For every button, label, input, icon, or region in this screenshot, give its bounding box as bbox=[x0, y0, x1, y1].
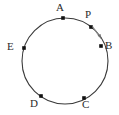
figure-canvas bbox=[0, 0, 119, 115]
geometry-figure: A P B C D E bbox=[0, 0, 119, 115]
label-point-p: P bbox=[85, 9, 91, 20]
arrow-p-to-b-icon bbox=[93, 27, 102, 40]
label-point-a: A bbox=[56, 2, 64, 13]
point-marker-a bbox=[61, 16, 65, 20]
point-marker-d bbox=[39, 94, 43, 98]
point-marker-e bbox=[22, 46, 26, 50]
label-point-b: B bbox=[105, 40, 112, 51]
point-marker-b bbox=[99, 44, 103, 48]
label-point-d: D bbox=[30, 98, 38, 109]
label-point-e: E bbox=[7, 41, 14, 52]
label-point-c: C bbox=[82, 99, 89, 110]
